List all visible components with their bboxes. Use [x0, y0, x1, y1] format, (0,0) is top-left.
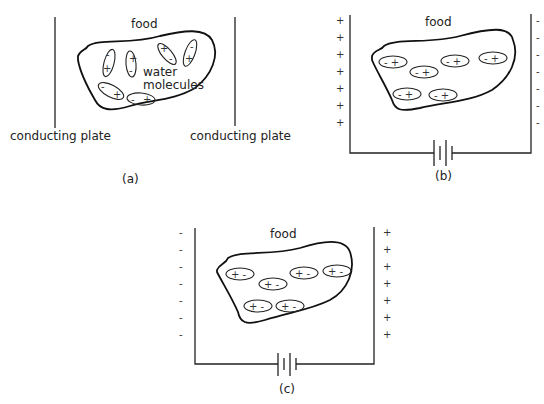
aligned-water-molecules: - + - + - + - + - + - + — [379, 52, 507, 101]
svg-text:+: + — [383, 278, 391, 289]
caption-b: (b) — [435, 169, 452, 183]
right-plate-label: conducting plate — [190, 129, 291, 143]
left-plate-charges: + + + + + + + — [336, 15, 344, 128]
left-plate-charges: - - - - - - - — [179, 227, 183, 340]
microwave-dielectric-heating-diagram: food -+ +- +- -+ -+ -+ water molecules c… — [0, 0, 544, 404]
water-molecules-label: water — [143, 65, 177, 79]
svg-text:-: - — [536, 66, 540, 77]
svg-text:-: - — [169, 53, 173, 64]
svg-text:+: + — [160, 43, 168, 54]
svg-text:+ -: + - — [295, 268, 311, 279]
svg-text:-: - — [536, 49, 540, 60]
svg-text:-: - — [179, 278, 183, 289]
svg-text:-: - — [179, 312, 183, 323]
svg-text:-: - — [536, 32, 540, 43]
water-molecules-label-2: molecules — [143, 78, 204, 92]
panel-a: food -+ +- +- -+ -+ -+ water molecules c… — [10, 17, 291, 186]
panel-b: + + + + + + + - - - - - - - food - + - +… — [336, 14, 540, 183]
svg-text:+ -: + - — [328, 266, 344, 277]
svg-text:+: + — [185, 53, 193, 64]
left-plate-label: conducting plate — [10, 129, 111, 143]
svg-text:+: + — [383, 261, 391, 272]
svg-text:-: - — [536, 15, 540, 26]
svg-text:+: + — [113, 89, 121, 100]
circuit-wire — [350, 14, 531, 153]
svg-text:- +: - + — [398, 89, 413, 100]
svg-text:+: + — [336, 49, 344, 60]
svg-text:-: - — [131, 94, 135, 105]
svg-text:-: - — [179, 227, 183, 238]
svg-text:+ -: + - — [281, 301, 297, 312]
right-plate-charges: + + + + + + + — [383, 227, 391, 340]
svg-text:+: + — [336, 83, 344, 94]
svg-text:+: + — [129, 53, 137, 64]
svg-text:+: + — [336, 66, 344, 77]
svg-text:-: - — [179, 244, 183, 255]
caption-a: (a) — [122, 172, 139, 186]
svg-text:-: - — [190, 41, 194, 52]
svg-text:- +: - + — [446, 56, 461, 67]
food-label: food — [270, 227, 297, 241]
svg-text:+: + — [383, 295, 391, 306]
svg-text:-: - — [106, 49, 110, 60]
svg-text:- +: - + — [384, 57, 399, 68]
svg-text:-: - — [179, 295, 183, 306]
svg-text:-: - — [101, 81, 105, 92]
svg-text:- +: - + — [484, 53, 499, 64]
food-label: food — [131, 17, 158, 31]
svg-text:+: + — [336, 15, 344, 26]
svg-text:+: + — [143, 94, 151, 105]
svg-text:- +: - + — [434, 90, 449, 101]
svg-text:+ -: + - — [264, 279, 280, 290]
svg-text:+ -: + - — [249, 301, 265, 312]
svg-text:-: - — [179, 261, 183, 272]
aligned-water-molecules: + - + - + - + - + - + - — [226, 265, 351, 312]
panel-c: - - - - - - - + + + + + + + food + - + -… — [179, 227, 391, 396]
caption-c: (c) — [279, 382, 295, 396]
food-label: food — [425, 15, 452, 29]
svg-text:- +: - + — [415, 67, 430, 78]
svg-text:-: - — [129, 65, 133, 76]
svg-text:+: + — [383, 312, 391, 323]
svg-text:+ -: + - — [231, 269, 247, 280]
svg-text:-: - — [179, 329, 183, 340]
svg-text:+: + — [336, 100, 344, 111]
svg-text:+: + — [103, 63, 111, 74]
svg-text:+: + — [383, 227, 391, 238]
svg-text:+: + — [336, 32, 344, 43]
svg-text:-: - — [536, 117, 540, 128]
svg-text:+: + — [383, 244, 391, 255]
svg-text:+: + — [336, 117, 344, 128]
svg-text:-: - — [536, 100, 540, 111]
svg-text:-: - — [536, 83, 540, 94]
right-plate-charges: - - - - - - - — [536, 15, 540, 128]
svg-text:+: + — [383, 329, 391, 340]
